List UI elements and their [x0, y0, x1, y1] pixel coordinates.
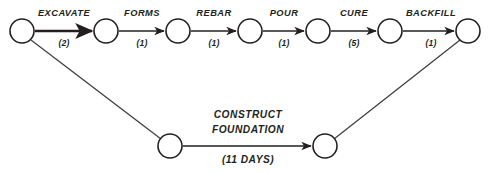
duration-label-pour: (1): [278, 38, 289, 48]
node-n9[interactable]: [313, 134, 337, 158]
node-n8[interactable]: [158, 134, 182, 158]
node-n4[interactable]: [238, 19, 262, 43]
summary-activity-label-line2: FOUNDATION: [212, 124, 284, 135]
summary-activity-label-line1: CONSTRUCT: [214, 109, 283, 120]
activity-label-backfill: BACKFILL: [406, 8, 456, 18]
duration-label-cure: (5): [348, 38, 359, 48]
duration-label-rebar: (1): [208, 38, 219, 48]
network-diagram: EXCAVATE FORMS REBAR POUR CURE BACKFILL …: [0, 0, 498, 173]
activity-label-rebar: REBAR: [196, 8, 231, 18]
summary-activity-duration: (11 DAYS): [222, 154, 274, 165]
activity-label-pour: POUR: [270, 8, 299, 18]
node-n3[interactable]: [166, 19, 190, 43]
duration-label-backfill: (1): [425, 38, 436, 48]
diagram-canvas: EXCAVATE FORMS REBAR POUR CURE BACKFILL …: [0, 0, 498, 173]
left-diagonal-connector: [31, 40, 161, 139]
node-n7[interactable]: [456, 19, 480, 43]
duration-label-excavate: (2): [58, 38, 69, 48]
activity-label-forms: FORMS: [124, 8, 160, 18]
node-n1[interactable]: [10, 19, 34, 43]
node-n5[interactable]: [306, 19, 330, 43]
right-diagonal-connector: [334, 40, 460, 139]
duration-label-forms: (1): [136, 38, 147, 48]
node-n6[interactable]: [378, 19, 402, 43]
activity-label-cure: CURE: [340, 8, 368, 18]
activity-label-excavate: EXCAVATE: [38, 8, 91, 18]
node-n2[interactable]: [94, 19, 118, 43]
